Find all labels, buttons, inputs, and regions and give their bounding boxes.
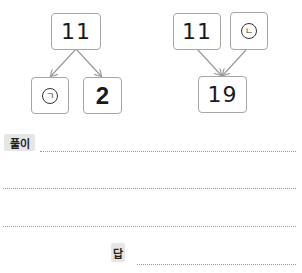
solution-label: 풀이 xyxy=(4,134,35,151)
circled-nieun-symbol: ㄴ xyxy=(241,23,257,39)
arrow-right-tree-from-11 xyxy=(197,49,221,75)
left-bottom-right-value: 2 xyxy=(96,82,109,110)
arrow-right-tree-from-nieun xyxy=(223,50,246,75)
answer-label: 답 xyxy=(111,243,125,262)
right-bottom-value: 19 xyxy=(208,82,238,107)
answer-line[interactable] xyxy=(137,264,296,265)
right-bottom-box: 19 xyxy=(198,76,247,113)
solution-line-3[interactable] xyxy=(3,226,296,227)
arrow-left-tree-to-giyeok xyxy=(51,49,76,76)
right-top-left-box: 11 xyxy=(173,13,221,50)
solution-line-1[interactable] xyxy=(40,151,296,152)
right-top-left-value: 11 xyxy=(182,19,212,44)
right-top-right-box: ㄴ xyxy=(230,12,268,50)
left-bottom-right-box: 2 xyxy=(83,77,122,114)
solution-line-2[interactable] xyxy=(3,188,296,189)
left-top-box: 11 xyxy=(51,13,101,50)
circled-giyeok-symbol: ㄱ xyxy=(42,88,58,104)
arrow-left-tree-to-2 xyxy=(76,49,101,76)
left-top-value: 11 xyxy=(61,19,91,44)
left-bottom-left-box: ㄱ xyxy=(31,77,69,114)
